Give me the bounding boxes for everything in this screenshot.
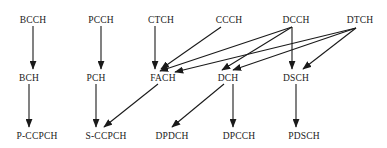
node-dpdch: DPDCH xyxy=(155,131,188,142)
channel-mapping-diagram: BCCHPCCHCTCHCCCHDCCHDTCHBCHPCHFACHDCHDSC… xyxy=(0,0,387,148)
node-bch: BCH xyxy=(19,73,39,84)
node-ccch: CCCH xyxy=(216,15,243,26)
node-dtch: DTCH xyxy=(347,15,374,26)
node-fach: FACH xyxy=(150,73,175,84)
node-layer: BCCHPCCHCTCHCCCHDCCHDTCHBCHPCHFACHDCHDSC… xyxy=(0,0,387,148)
node-dch: DCH xyxy=(218,73,239,84)
node-pch: PCH xyxy=(86,73,105,84)
node-dcch: DCCH xyxy=(282,15,309,26)
node-pdsch: PDSCH xyxy=(288,131,320,142)
node-dsch: DSCH xyxy=(283,73,309,84)
node-pcch: PCCH xyxy=(88,15,114,26)
node-bcch: BCCH xyxy=(20,15,47,26)
node-s-ccpch: S-CCPCH xyxy=(85,131,126,142)
node-p-ccpch: P-CCPCH xyxy=(16,131,57,142)
node-ctch: CTCH xyxy=(148,15,174,26)
node-dpcch: DPCCH xyxy=(223,131,256,142)
